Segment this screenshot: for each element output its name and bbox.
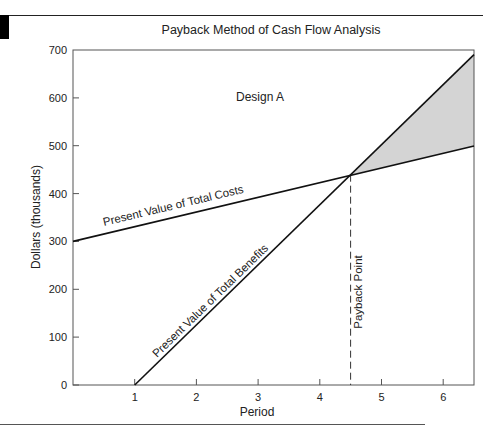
chart-title: Payback Method of Cash Flow Analysis	[162, 23, 381, 37]
y-axis-title: Dollars (thousands)	[29, 165, 43, 269]
y-tick-label: 100	[49, 331, 67, 343]
costs-line	[73, 146, 474, 241]
y-tick-label: 200	[49, 283, 67, 295]
benefits-line-label: Present Value of Total Benefits	[150, 242, 271, 360]
payback-chart: Payback Method of Cash Flow Analysis 0 1…	[0, 0, 502, 440]
x-axis-title: Period	[240, 405, 275, 419]
y-tick-label: 600	[49, 92, 67, 104]
x-tick-label: 4	[317, 391, 323, 403]
x-tick-label: 6	[440, 391, 446, 403]
x-tick-label: 2	[193, 391, 199, 403]
x-tick-label: 5	[378, 391, 384, 403]
y-tick-label: 400	[49, 188, 67, 200]
y-tick-label: 500	[49, 140, 67, 152]
x-tick-label: 1	[132, 391, 138, 403]
payback-point-label: Payback Point	[352, 254, 364, 328]
x-tick-label: 3	[255, 391, 261, 403]
design-label: Design A	[236, 90, 284, 104]
y-tick-label: 300	[49, 235, 67, 247]
x-axis	[135, 379, 444, 385]
benefits-line	[135, 55, 474, 385]
y-tick-label: 700	[49, 44, 67, 56]
y-tick-label: 0	[61, 379, 67, 391]
